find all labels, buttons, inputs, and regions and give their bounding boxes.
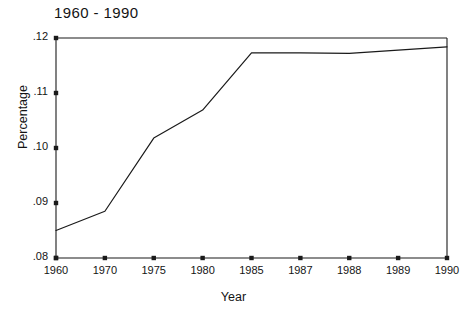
x-tick-mark [298,256,302,260]
y-tick-mark [54,146,58,150]
x-tick-mark [396,256,400,260]
data-series-line [56,47,447,231]
x-tick-mark [445,256,449,260]
x-tick-label: 1988 [321,264,377,276]
y-tick-mark [54,201,58,205]
x-tick-label: 1989 [370,264,426,276]
y-tick-label: .09 [8,195,48,207]
x-tick-mark [152,256,156,260]
x-tick-label: 1980 [175,264,231,276]
x-tick-mark [200,256,204,260]
y-tick-label: .10 [8,140,48,152]
y-tick-mark [54,91,58,95]
x-tick-label: 1985 [224,264,280,276]
x-tick-label: 1960 [28,264,84,276]
x-tick-label: 1970 [77,264,133,276]
y-tick-label: .12 [8,30,48,42]
x-tick-label: 1975 [126,264,182,276]
x-tick-mark [103,256,107,260]
x-tick-label: 1990 [419,264,467,276]
y-tick-label: .11 [8,85,48,97]
x-tick-mark [54,256,58,260]
y-tick-mark [54,36,58,40]
x-tick-label: 1987 [272,264,328,276]
line-chart: 1960 - 1990 Percentage Year .12.11.10.09… [0,0,467,317]
x-tick-mark [347,256,351,260]
y-tick-label: .08 [8,250,48,262]
x-tick-mark [249,256,253,260]
